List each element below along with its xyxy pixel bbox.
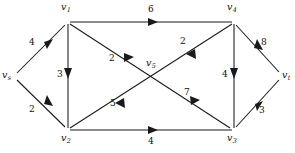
- edge-label-v4-vt: 8: [261, 38, 267, 47]
- node-label-v5: v5: [146, 58, 156, 68]
- edge-vs-v2: [17, 80, 65, 127]
- edge-v3-vt: [236, 80, 279, 127]
- edge-vs-v1: [17, 25, 65, 73]
- graph-canvas: [0, 0, 295, 153]
- node-subscript-vs: s: [8, 74, 11, 82]
- edge-v2-v3: [70, 126, 232, 134]
- edge-label-v5-v3: 7: [184, 88, 190, 97]
- edge-label-v4-v3: 4: [222, 70, 228, 79]
- edge-label-v5-v4: 2: [180, 37, 186, 46]
- arrow-head-vs-v2: [44, 95, 53, 106]
- node-letter-v5: v: [146, 57, 151, 68]
- edge-line-vs-v1: [17, 25, 65, 73]
- node-letter-v1: v: [61, 1, 66, 12]
- edge-label-v1-v4: 6: [148, 5, 154, 14]
- node-label-v2: v2: [61, 133, 71, 143]
- arrow-head-v1-v4: [148, 18, 158, 26]
- node-letter-v3: v: [227, 132, 232, 143]
- node-label-v3: v3: [227, 133, 237, 143]
- node-letter-v2: v: [61, 132, 66, 143]
- node-label-v4: v4: [227, 2, 237, 12]
- edge-label-v1-v5: 2: [109, 54, 115, 63]
- arrow-head-v1-v5: [124, 53, 134, 62]
- edge-label-vs-v2: 2: [29, 105, 35, 114]
- arrow-head-v5-v3: [190, 96, 200, 105]
- arrow-head-vs-v1: [44, 39, 53, 49]
- flow-network-figure: vs v1 v2 v5 v4 v3 vt 4 2 6 3 2 5 4 2 7 4…: [0, 0, 295, 153]
- arrow-head-v1-v2: [64, 68, 72, 79]
- edge-v1-v4: [70, 18, 232, 26]
- edge-label-v2-v5: 5: [110, 99, 116, 108]
- edge-v1-v2: [64, 24, 72, 128]
- edge-label-v3-vt: 3: [259, 106, 265, 115]
- edge-label-vs-v1: 4: [29, 38, 35, 47]
- edge-label-v1-v2: 3: [57, 70, 63, 79]
- arrow-head-v2-v3: [148, 126, 158, 134]
- arrow-head-v2-v5: [115, 98, 125, 108]
- node-label-v1: v1: [61, 2, 71, 12]
- edge-label-v2-v3: 4: [148, 137, 154, 146]
- node-subscript-v3: 3: [233, 137, 237, 145]
- node-label-vt: vt: [282, 70, 290, 80]
- node-subscript-v1: 1: [67, 6, 71, 14]
- node-label-vs: vs: [2, 70, 11, 80]
- node-subscript-v4: 4: [233, 6, 237, 14]
- node-letter-vs: v: [2, 69, 7, 80]
- node-subscript-vt: t: [288, 74, 291, 82]
- edge-v4-v3: [230, 24, 238, 128]
- node-letter-vt: v: [282, 69, 287, 80]
- node-subscript-v2: 2: [67, 137, 71, 145]
- node-letter-v4: v: [227, 1, 232, 12]
- edge-v4-vt: [236, 25, 279, 72]
- edge-line-vs-v2: [17, 80, 65, 127]
- arrow-head-v4-v3: [230, 68, 238, 79]
- node-subscript-v5: 5: [152, 62, 156, 70]
